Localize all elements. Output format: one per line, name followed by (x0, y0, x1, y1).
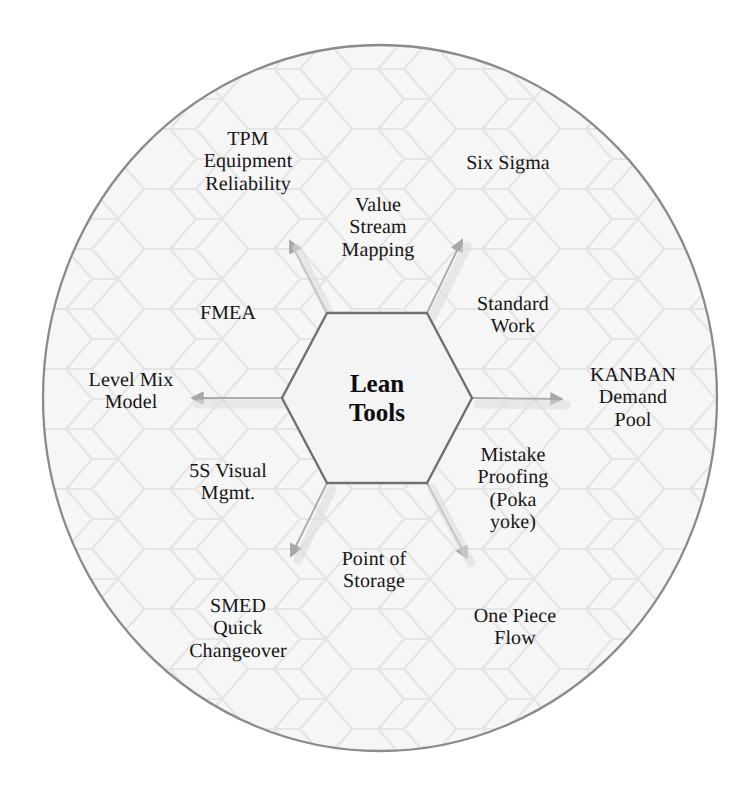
tool-label-six-sigma: Six Sigma (466, 152, 550, 174)
tool-label-value-stream: Value Stream Mapping (342, 194, 415, 261)
arrow-right-icon (472, 398, 562, 399)
core-label: Lean Tools (349, 370, 405, 427)
tool-label-fmea: FMEA (200, 302, 256, 324)
tool-label-standard-work: Standard Work (477, 293, 549, 338)
tool-label-mistake-proofing: Mistake Proofing (Poka yoke) (478, 444, 549, 534)
tool-label-kanban: KANBAN Demand Pool (590, 364, 676, 431)
tool-label-5s-visual-mgmt: 5S Visual Mgmt. (189, 460, 267, 505)
tool-label-one-piece-flow: One Piece Flow (474, 605, 557, 650)
tool-label-point-of-storage: Point of Storage (342, 548, 407, 593)
tool-label-level-mix: Level Mix Model (89, 369, 174, 414)
lean-tools-diagram: Lean Tools TPM Equipment Reliability Six… (0, 0, 754, 800)
tool-label-smed: SMED Quick Changeover (189, 595, 287, 662)
tool-label-tpm: TPM Equipment Reliability (204, 128, 293, 195)
